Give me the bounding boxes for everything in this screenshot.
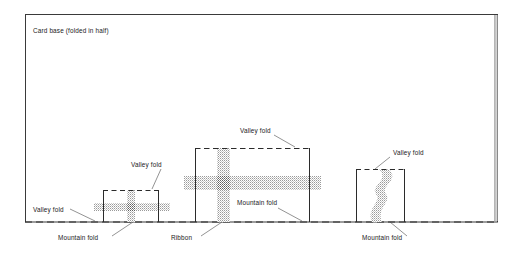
large-pop-up-ribbon-crossing [217, 176, 230, 190]
leader-mountain-fold-left [112, 222, 133, 236]
annotation-valley-fold-wavy-box: Valley fold [393, 149, 424, 157]
annotation-valley-fold-baseline-left: Valley fold [33, 206, 64, 214]
leader-valley-fold-small-box [152, 169, 161, 189]
card-base-outline [26, 15, 498, 223]
annotation-mountain-fold-middle: Mountain fold [237, 199, 278, 206]
leader-valley-fold-baseline-left [70, 209, 95, 221]
leader-valley-fold-wavy-box [375, 157, 390, 169]
annotation-ribbon-middle: Ribbon [171, 234, 192, 241]
card-base-right-edge-shading [494, 15, 498, 221]
annotation-valley-fold-small-box: Valley fold [131, 161, 162, 169]
wavy-pop-up [356, 169, 405, 222]
annotation-mountain-fold-left: Mountain fold [58, 234, 99, 241]
large-pop-up-ribbon-horizontal [184, 176, 321, 190]
card-base-frame [26, 15, 499, 223]
pop-up-card-diagram: Card base (folded in half) [0, 0, 529, 257]
leader-valley-fold-large-box [274, 135, 295, 147]
diagram-canvas: Card base (folded in half) [0, 0, 529, 257]
card-base-title: Card base (folded in half) [33, 27, 109, 35]
leader-ribbon-middle [201, 222, 222, 236]
wavy-pop-up-ribbon [371, 169, 393, 222]
leader-mountain-fold-middle [278, 208, 302, 221]
annotation-mountain-fold-right: Mountain fold [362, 234, 403, 241]
annotation-valley-fold-large-box: Valley fold [240, 127, 271, 135]
small-pop-up-ribbon-crossing [127, 203, 135, 211]
small-pop-up [94, 190, 170, 222]
large-pop-up [184, 148, 321, 222]
